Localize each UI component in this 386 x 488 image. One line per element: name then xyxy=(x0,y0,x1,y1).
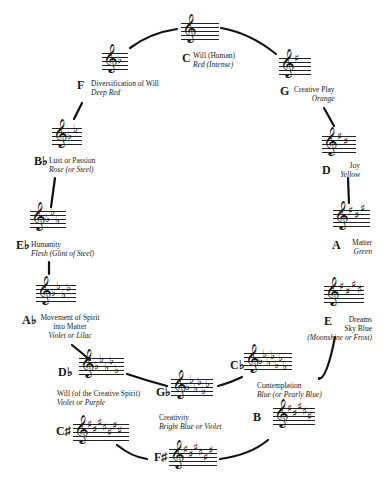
flat-icon: ♭ xyxy=(67,130,72,141)
label-c: Will (Human)Red (Intense) xyxy=(193,51,235,69)
staff-c-flat: 𝄞 ♭ ♭ ♭ ♭ ♭ ♭ ♭ xyxy=(244,353,292,371)
key-e-flat: E♭ xyxy=(16,238,30,253)
sharp-icon: ♯ xyxy=(345,286,350,297)
staff-g: 𝄞 ♯ xyxy=(279,58,311,76)
label-e-flat: HumanityFlesh (Glint of Steel) xyxy=(31,240,94,258)
key-b: B xyxy=(253,410,261,425)
sharp-icon: ♯ xyxy=(360,203,365,214)
key-c-sharp: C♯ xyxy=(56,424,71,439)
key-g-flat: G♭ xyxy=(156,385,171,400)
sharp-icon: ♯ xyxy=(294,53,299,64)
treble-clef-icon: 𝄞 xyxy=(53,120,68,145)
staff-b: 𝄞 ♯ ♯ ♯ ♯ ♯ xyxy=(273,408,315,426)
treble-clef-icon: 𝄞 xyxy=(334,202,349,227)
staff-d: 𝄞 ♯ ♯ xyxy=(322,136,356,154)
sharp-icon: ♯ xyxy=(208,445,213,456)
flat-icon: ♭ xyxy=(117,54,122,65)
staff-g-flat: 𝄞 ♭ ♭ ♭ ♭ ♭ ♭ xyxy=(171,379,213,397)
flat-icon: ♭ xyxy=(205,378,210,389)
sharp-icon: ♯ xyxy=(354,210,359,221)
label-e: DreamsSky Blue(Moonshine or Frost) xyxy=(296,315,372,342)
staff-b-flat: 𝄞 ♭ ♭ xyxy=(52,128,82,146)
label-b-flat: Lust or PassionRose (or Steel) xyxy=(49,156,95,174)
sharp-icon: ♯ xyxy=(351,279,356,290)
staff-a: 𝄞 ♯ ♯ ♯ xyxy=(333,210,370,228)
key-b-flat: B♭ xyxy=(34,154,48,169)
label-d-flat: Will (of the Creative Spirit)Violet or P… xyxy=(57,389,140,407)
label-g: Creative PlayOrange xyxy=(294,85,335,103)
treble-clef-icon: 𝄞 xyxy=(37,277,52,302)
key-g: G xyxy=(280,84,289,99)
key-a-flat: A♭ xyxy=(22,313,37,328)
flat-icon: ♭ xyxy=(55,215,60,226)
flat-icon: ♭ xyxy=(114,364,119,375)
staff-a-flat: 𝄞 ♭ ♭ ♭ ♭ xyxy=(36,285,76,303)
staff-f: 𝄞 ♭ xyxy=(102,53,128,71)
staff-e-flat: 𝄞 ♭ ♭ ♭ xyxy=(30,211,66,229)
sharp-icon: ♯ xyxy=(307,411,312,422)
staff-d-flat: 𝄞 ♭ ♭ ♭ ♭ ♭ xyxy=(79,358,124,376)
key-a: A xyxy=(332,238,341,253)
flat-icon: ♭ xyxy=(73,123,78,134)
label-g-flat: CreativityBright Blue or Violet xyxy=(159,413,222,431)
flat-icon: ♭ xyxy=(282,361,287,372)
staff-c-sharp: 𝄞 ♯ ♯ ♯ ♯ ♯ ♯ ♯ xyxy=(73,424,129,442)
label-d: JoyYellow xyxy=(336,161,360,179)
treble-clef-icon: 𝄞 xyxy=(182,15,197,40)
treble-clef-icon: 𝄞 xyxy=(323,128,338,153)
treble-clef-icon: 𝄞 xyxy=(325,278,340,303)
treble-clef-icon: 𝄞 xyxy=(31,203,46,228)
treble-clef-icon: 𝄞 xyxy=(80,350,95,375)
treble-clef-icon: 𝄞 xyxy=(103,45,118,70)
staff-c: 𝄞 xyxy=(181,23,219,41)
staff-f-sharp: 𝄞 ♯ ♯ ♯ ♯ ♯ ♯ xyxy=(169,449,217,467)
sharp-icon: ♯ xyxy=(117,425,122,436)
staff-e: 𝄞 ♯ ♯ ♯ ♯ xyxy=(324,286,364,304)
label-a-flat: Movement of Spiritinto MatterViolet or L… xyxy=(36,313,104,340)
key-f: F xyxy=(77,78,84,93)
key-c-flat: C♭ xyxy=(230,358,245,373)
sharp-icon: ♯ xyxy=(343,136,348,147)
key-c: C xyxy=(182,51,191,66)
key-d: D xyxy=(322,163,331,178)
label-a: MatterGreen xyxy=(346,238,372,256)
sharp-icon: ♯ xyxy=(348,205,353,216)
sharp-icon: ♯ xyxy=(357,284,362,295)
label-f: Diversification of WillDeep Red xyxy=(91,79,159,97)
key-f-sharp: F♯ xyxy=(154,450,167,465)
sharp-icon: ♯ xyxy=(337,131,342,142)
key-d-flat: D♭ xyxy=(58,365,73,380)
treble-clef-icon: 𝄞 xyxy=(280,50,295,75)
sharp-icon: ♯ xyxy=(339,281,344,292)
label-c-flat: ContemplationBlue (or Pearly Blue) xyxy=(257,381,322,399)
flat-icon: ♭ xyxy=(66,282,71,293)
